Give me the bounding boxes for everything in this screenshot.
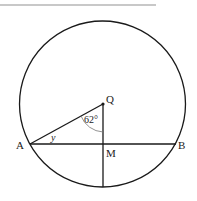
label-angle-y: y [50, 132, 56, 143]
label-B: B [178, 139, 185, 151]
label-A: A [16, 139, 24, 151]
label-Q: Q [106, 93, 114, 105]
circle-diagram: Q A B M 62° y [0, 0, 197, 201]
label-angle-62: 62° [84, 114, 98, 125]
center-point [101, 102, 104, 105]
label-M: M [106, 147, 116, 159]
